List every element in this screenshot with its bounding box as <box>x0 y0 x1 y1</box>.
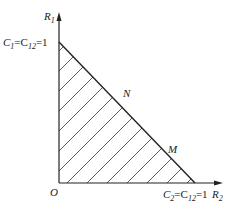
y-axis-arrow-icon <box>57 12 62 21</box>
x-axis-label: R2 <box>211 188 223 203</box>
y-axis-label: R1 <box>43 10 55 25</box>
origin-label: O <box>50 186 58 198</box>
region-boundary-line <box>59 42 195 183</box>
point-label-m: M <box>167 143 178 155</box>
y-intercept-label: C1=C12=1 <box>3 36 48 51</box>
x-intercept-label: C2=C12=1 <box>163 188 208 203</box>
point-label-n: N <box>122 87 131 99</box>
capacity-region-diagram: R1 R2 O C1=C12=1 C2=C12=1 N M <box>0 0 233 211</box>
hatched-region <box>40 0 233 200</box>
x-axis-arrow-icon <box>214 181 223 186</box>
